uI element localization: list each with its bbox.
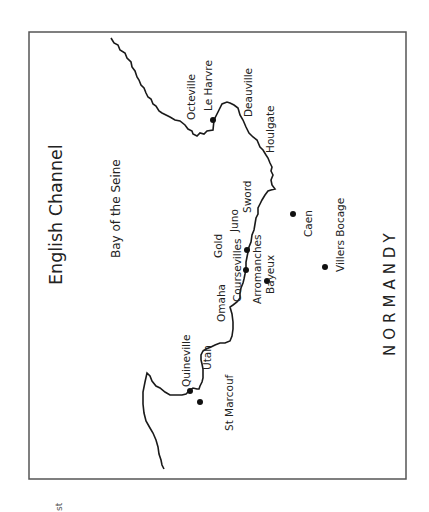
octeville-label: Octeville [186, 74, 197, 120]
caen-dot [290, 211, 296, 217]
arromanches-dot [244, 247, 250, 253]
arromanches-label: Arromanches [252, 234, 263, 304]
quineville-dot [187, 388, 193, 394]
quineville-label: Quineville [181, 335, 192, 387]
english-channel-label: English Channel [48, 144, 66, 285]
gold-beach-label: Gold [213, 234, 224, 258]
omaha-beach-label: Omaha [216, 284, 227, 322]
normandy-map: English Channel Bay of the Seine NORMAND… [0, 0, 429, 512]
sword-beach-label: Sword [242, 181, 253, 213]
coursevilles-label: Coursevilles [232, 238, 243, 302]
villers-bocage-dot [322, 264, 328, 270]
juno-beach-label: Juno [229, 209, 240, 232]
corner-text-fragment: st [55, 503, 64, 511]
utah-beach-label: Utah [202, 345, 213, 370]
bayeux-label: Bayeux [265, 255, 276, 294]
normandy-label: NORMANDY [383, 228, 398, 356]
houlgate-label: Houlgate [265, 105, 276, 153]
bay-of-the-seine-label: Bay of the Seine [110, 159, 122, 258]
st-marcouf-dot [197, 399, 203, 405]
deauville-label: Deauville [243, 68, 254, 117]
coursevilles-dot [243, 267, 249, 273]
caen-label: Caen [303, 210, 314, 237]
villers-bocage-label: Villers Bocage [335, 198, 346, 272]
le-harvre-label: Le Harvre [203, 60, 214, 111]
st-marcouf-label: St Marcouf [224, 375, 235, 431]
le-harvre-dot [210, 117, 216, 123]
